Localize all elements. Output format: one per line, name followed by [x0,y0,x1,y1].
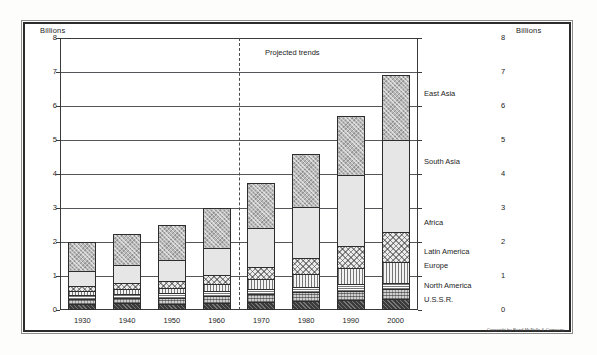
bar-segment-1930-u-s-s-r [68,304,96,310]
legend-label-u-s-s-r: U.S.S.R. [424,295,453,304]
legend-label-europe: Europe [424,261,448,270]
bar-segment-1970-latin-america [247,279,275,289]
bar-segment-1990-latin-america [337,268,365,284]
bar-segment-1940-u-s-s-r [113,303,141,310]
y-tick-left-7: 7 [41,67,57,76]
bar-segment-2000-east-asia [382,75,410,140]
bar-1940 [113,234,141,311]
bar-segment-1990-east-asia [337,116,365,174]
y-tickmark-right-8 [418,38,422,39]
chart-plate: Billions Billions 876543210 876543210 Pr… [0,0,597,355]
y-tick-left-5: 5 [41,135,57,144]
x-label-1980: 1980 [286,316,326,325]
bar-segment-1970-africa [247,267,275,279]
y-tickmark-right-3 [418,208,422,209]
bar-segment-1930-east-asia [68,242,96,271]
bar-1960 [203,208,231,310]
bar-1950 [158,225,186,310]
bar-segment-1990-south-asia [337,175,365,246]
bar-2000 [382,75,410,310]
bar-1980 [292,154,320,310]
bar-segment-1970-south-asia [247,228,275,267]
bar-segment-1950-south-asia [158,260,186,281]
bar-segment-1960-north-america [203,296,231,303]
x-label-2000: 2000 [376,316,416,325]
bar-segment-1930-south-asia [68,271,96,286]
bar-1930 [68,242,96,310]
bar-segment-1960-east-asia [203,208,231,248]
bar-segment-1980-south-asia [292,207,320,259]
legend-label-latin-america: Latin America [424,247,469,256]
bar-segment-1980-africa [292,258,320,274]
y-tickmark-left-0 [56,310,60,311]
bar-segment-2000-latin-america [382,262,410,283]
copyright-notice: Copyright by Rand McNally & Company [487,327,564,332]
bar-segment-1990-north-america [337,291,365,301]
projection-divider [239,38,240,310]
legend: East AsiaSouth AsiaAfricaLatin AmericaEu… [424,38,506,310]
bar-segment-1950-africa [158,281,186,288]
bar-segment-2000-u-s-s-r [382,299,410,310]
legend-label-east-asia: East Asia [424,89,455,98]
y-tick-left-8: 8 [41,33,57,42]
bar-1990 [337,116,365,310]
bar-segment-1980-latin-america [292,274,320,286]
y-tickmark-right-7 [418,72,422,73]
y-tick-left-2: 2 [41,237,57,246]
y-tick-left-4: 4 [41,169,57,178]
y-tick-left-3: 3 [41,203,57,212]
x-label-1950: 1950 [152,316,192,325]
bar-segment-1970-east-asia [247,183,275,229]
bar-segment-1960-u-s-s-r [203,303,231,310]
x-label-1930: 1930 [62,316,102,325]
bar-segment-1970-u-s-s-r [247,302,275,310]
bar-segment-1990-africa [337,246,365,268]
bar-segment-1980-north-america [292,292,320,301]
y-tickmark-right-0 [418,310,422,311]
bar-segment-1980-u-s-s-r [292,301,320,310]
projected-trends-label: Projected trends [265,48,320,57]
y-tickmark-right-5 [418,140,422,141]
y-tickmark-right-4 [418,174,422,175]
bar-segment-1950-east-asia [158,225,186,260]
bar-segment-2000-africa [382,232,410,262]
y-tickmark-right-2 [418,242,422,243]
bar-segment-1970-north-america [247,294,275,302]
legend-label-north-america: North America [424,281,472,290]
bar-segment-1960-south-asia [203,248,231,275]
bar-segment-1940-south-asia [113,265,141,283]
y-tickmark-right-1 [418,276,422,277]
y-tickmark-right-6 [418,106,422,107]
bar-1970 [247,183,275,311]
y-tick-left-0: 0 [41,305,57,314]
legend-label-africa: Africa [424,218,443,227]
bar-segment-1960-latin-america [203,284,231,291]
bar-segment-1940-east-asia [113,234,141,266]
bar-segment-1950-u-s-s-r [158,304,186,310]
x-label-1990: 1990 [331,316,371,325]
y-axis-unit-label-right: Billions [516,26,541,35]
bar-segment-2000-south-asia [382,140,410,232]
bar-segment-1980-east-asia [292,154,320,207]
x-label-1940: 1940 [107,316,147,325]
bar-segment-2000-north-america [382,289,410,299]
plot-area [60,38,418,310]
bar-segment-1990-u-s-s-r [337,300,365,310]
y-tick-left-1: 1 [41,271,57,280]
x-label-1970: 1970 [241,316,281,325]
legend-label-south-asia: South Asia [424,157,460,166]
x-label-1960: 1960 [197,316,237,325]
bar-segment-1960-africa [203,275,231,284]
y-tick-left-6: 6 [41,101,57,110]
